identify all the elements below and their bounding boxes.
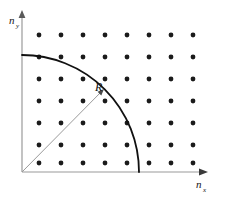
lattice-dot: [147, 55, 152, 60]
lattice-dot: [191, 99, 196, 104]
lattice-dot: [37, 33, 42, 38]
lattice-dot: [37, 143, 42, 148]
lattice-dot: [169, 143, 174, 148]
y-axis-label-subscript: y: [15, 22, 20, 30]
lattice-dot: [103, 143, 108, 148]
lattice-dot: [81, 143, 86, 148]
lattice-dot: [103, 121, 108, 126]
lattice-dot: [147, 143, 152, 148]
lattice-dot: [191, 121, 196, 126]
lattice-dot-grid: [37, 33, 196, 166]
lattice-dot: [103, 77, 108, 82]
lattice-dot: [37, 121, 42, 126]
arrowhead-right-icon: [199, 169, 208, 176]
lattice-dot: [37, 77, 42, 82]
lattice-dot: [147, 121, 152, 126]
lattice-dot: [125, 143, 130, 148]
lattice-dot: [81, 33, 86, 38]
x-axis-label: n x: [196, 178, 207, 194]
lattice-dot: [191, 55, 196, 60]
lattice-dot: [191, 161, 196, 166]
lattice-dot: [59, 143, 64, 148]
lattice-dot: [147, 161, 152, 166]
arrowhead-up-icon: [19, 10, 26, 18]
radius-label: R: [94, 80, 103, 94]
lattice-dot: [59, 33, 64, 38]
lattice-dot: [191, 143, 196, 148]
lattice-quarter-circle-figure: n y n x R: [0, 0, 225, 199]
lattice-dot: [59, 121, 64, 126]
lattice-dot: [147, 99, 152, 104]
lattice-dot: [125, 55, 130, 60]
x-axis-label-base: n: [196, 178, 202, 190]
lattice-dot: [147, 77, 152, 82]
x-axis-label-subscript: x: [202, 186, 207, 194]
lattice-dot: [103, 161, 108, 166]
lattice-dot: [81, 77, 86, 82]
lattice-dot: [191, 77, 196, 82]
lattice-dot: [169, 161, 174, 166]
lattice-dot: [103, 33, 108, 38]
lattice-dot: [59, 55, 64, 60]
lattice-dot: [191, 33, 196, 38]
lattice-dot: [103, 55, 108, 60]
lattice-dot: [169, 121, 174, 126]
lattice-dot: [59, 99, 64, 104]
lattice-dot: [37, 99, 42, 104]
lattice-dot: [103, 99, 108, 104]
lattice-dot: [59, 77, 64, 82]
lattice-dot: [125, 99, 130, 104]
lattice-dot: [169, 33, 174, 38]
lattice-dot: [81, 121, 86, 126]
lattice-dot: [59, 161, 64, 166]
lattice-dot: [125, 33, 130, 38]
lattice-dot: [37, 161, 42, 166]
lattice-dot: [125, 77, 130, 82]
lattice-dot: [147, 33, 152, 38]
y-axis-label-base: n: [9, 14, 15, 26]
lattice-dot: [81, 55, 86, 60]
y-axis-label: n y: [9, 14, 20, 30]
lattice-dot: [125, 161, 130, 166]
lattice-dot: [169, 77, 174, 82]
figure-container: n y n x R: [0, 0, 225, 199]
lattice-dot: [81, 161, 86, 166]
lattice-dot: [81, 99, 86, 104]
lattice-dot: [169, 55, 174, 60]
lattice-dot: [169, 99, 174, 104]
